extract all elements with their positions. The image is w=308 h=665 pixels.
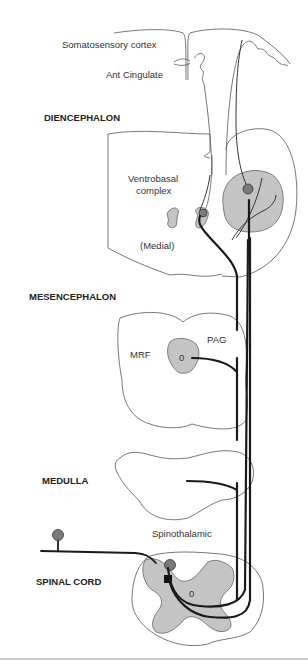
label-medial: (Medial): [140, 240, 174, 251]
region-diencephalon: DIENCEPHALON: [44, 112, 120, 123]
medial-nucleus-left: [167, 208, 178, 228]
label-ant-cingulate: Ant Cingulate: [106, 69, 163, 80]
region-mesencephalon: MESENCEPHALON: [29, 291, 116, 302]
pain-pathway-diagram: Somatosensory cortex Ant Cingulate DIENC…: [0, 0, 308, 665]
dorsal-horn-cell-body: [165, 560, 176, 571]
label-spinothalamic: Spinothalamic: [152, 528, 212, 539]
label-pag: PAG: [207, 334, 226, 345]
cortex-outline: [114, 29, 290, 175]
label-ventrobasal: Ventrobasal: [128, 173, 178, 184]
collateral-medulla: [187, 481, 237, 490]
region-medulla: MEDULLA: [42, 475, 89, 486]
label-somatosensory-cortex: Somatosensory cortex: [62, 39, 157, 50]
label-mesencephalon-nucleus: 0: [179, 352, 184, 363]
ventrobasal-cell-body: [243, 184, 253, 194]
medulla-outline: [115, 451, 253, 520]
label-spinal-canal: 0: [189, 588, 194, 599]
collateral-pag: [192, 358, 237, 372]
label-complex: complex: [136, 185, 172, 196]
dorsal-root-ganglion-cell: [53, 530, 64, 541]
medial-projection: [200, 175, 210, 210]
region-spinal-cord: SPINAL CORD: [36, 576, 101, 587]
primary-afferent: [41, 551, 135, 553]
label-mrf: MRF: [130, 349, 151, 360]
thalamocortical-projection: [236, 40, 246, 184]
